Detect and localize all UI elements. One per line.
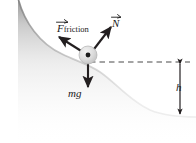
particle (79, 46, 97, 64)
friction-force-label: F friction (57, 23, 89, 34)
normal-force-label: N (112, 18, 119, 29)
hill-fill (18, 0, 196, 143)
weight-label: mg (68, 88, 81, 99)
normal-symbol-wrapper: N (112, 18, 119, 29)
friction-symbol-wrapper: F (57, 23, 64, 34)
height-label: h (176, 82, 182, 93)
physics-diagram: F friction N mg h (0, 0, 196, 143)
normal-symbol: N (112, 17, 119, 29)
hill-surface (18, 0, 196, 143)
friction-symbol: F (57, 22, 64, 34)
particle-center-dot (86, 53, 91, 58)
diagram-canvas (0, 0, 196, 143)
friction-subscript: friction (64, 24, 89, 34)
